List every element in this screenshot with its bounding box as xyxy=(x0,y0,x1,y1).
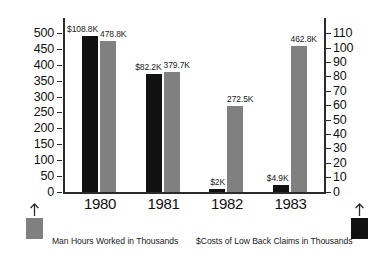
left-axis-tick-label: 100 xyxy=(18,154,54,166)
left-axis-tick-label: 50 xyxy=(18,170,54,182)
right-axis-tick xyxy=(326,177,331,178)
bar-value-label: $82.2K xyxy=(135,63,161,72)
x-axis-line xyxy=(63,192,326,194)
bar-man-hours xyxy=(227,106,243,192)
legend-swatch-costs xyxy=(351,218,368,239)
left-axis-tick-label: 200 xyxy=(18,122,54,134)
up-arrow-icon-left xyxy=(28,203,41,217)
bar-value-label: 462.8K xyxy=(291,35,317,44)
left-axis-tick xyxy=(57,97,62,98)
bar-group: $2K272.5K xyxy=(209,18,249,192)
bar-group: $82.2K379.7K xyxy=(146,18,186,192)
left-axis-tick xyxy=(57,81,62,82)
bar-value-label: $108.8K xyxy=(67,25,98,34)
right-axis-tick-label: 80 xyxy=(333,70,369,82)
plot-area: $108.8K478.8K$82.2K379.7K$2K272.5K$4.9K4… xyxy=(65,18,324,192)
right-axis-tick-label: 90 xyxy=(333,56,369,68)
bar-value-label: $2K xyxy=(210,178,225,187)
legend-swatch-man-hours xyxy=(26,218,43,239)
right-axis-tick xyxy=(326,148,331,149)
dual-axis-bar-chart: 050100150200250300350400450500 010203040… xyxy=(0,0,389,258)
bar-value-label: 379.7K xyxy=(164,61,190,70)
left-axis-tick xyxy=(57,65,62,66)
bar-man-hours xyxy=(100,41,116,192)
bar-value-label: 272.5K xyxy=(227,95,253,104)
right-axis-tick-label: 50 xyxy=(333,114,369,126)
left-axis-tick-label: 350 xyxy=(18,75,54,87)
category-label-1981: 1981 xyxy=(129,196,199,212)
bar-cost xyxy=(146,74,162,192)
right-axis-tick xyxy=(326,76,331,77)
right-axis-tick xyxy=(326,163,331,164)
right-axis-tick xyxy=(326,105,331,106)
bar-value-label: 478.8K xyxy=(100,30,126,39)
right-axis-tick xyxy=(326,91,331,92)
legend-label-costs: $Costs of Low Back Claims in Thousands xyxy=(196,236,353,246)
left-axis-tick-label: 250 xyxy=(18,106,54,118)
left-axis-tick-label: 500 xyxy=(18,27,54,39)
category-label-1980: 1980 xyxy=(65,196,135,212)
bar-cost xyxy=(273,185,289,192)
right-axis-tick-label: 40 xyxy=(333,128,369,140)
left-axis-tick xyxy=(57,112,62,113)
left-axis-tick xyxy=(57,128,62,129)
left-axis-tick xyxy=(57,144,62,145)
right-axis-tick-label: 110 xyxy=(333,27,369,39)
right-axis-tick-label: 20 xyxy=(333,157,369,169)
bar-cost xyxy=(82,36,98,192)
left-axis-tick-label: 150 xyxy=(18,138,54,150)
left-axis-tick xyxy=(57,49,62,50)
right-axis-tick xyxy=(326,120,331,121)
bar-group: $4.9K462.8K xyxy=(273,18,313,192)
bar-man-hours xyxy=(164,72,180,192)
left-axis-tick-label: 400 xyxy=(18,59,54,71)
bar-value-label: $4.9K xyxy=(267,174,289,183)
right-axis-tick-label: 10 xyxy=(333,171,369,183)
left-axis-tick xyxy=(57,176,62,177)
left-axis-tick xyxy=(57,192,62,193)
right-axis-tick xyxy=(326,48,331,49)
category-label-1983: 1983 xyxy=(256,196,326,212)
left-axis-tick-label: 0 xyxy=(18,186,54,198)
left-axis-tick xyxy=(57,33,62,34)
right-axis-tick-label: 0 xyxy=(333,186,369,198)
bar-cost xyxy=(209,189,225,192)
left-axis-tick-label: 300 xyxy=(18,91,54,103)
left-axis-tick-label: 450 xyxy=(18,43,54,55)
right-axis-tick-label: 70 xyxy=(333,85,369,97)
right-axis-tick-label: 100 xyxy=(333,42,369,54)
legend-label-man-hours: Man Hours Worked in Thousands xyxy=(52,236,178,246)
bar-man-hours xyxy=(291,46,307,192)
left-axis-tick xyxy=(57,160,62,161)
right-axis-tick xyxy=(326,33,331,34)
bar-group: $108.8K478.8K xyxy=(82,18,122,192)
right-axis-tick-label: 60 xyxy=(333,99,369,111)
right-axis-tick xyxy=(326,134,331,135)
category-label-1982: 1982 xyxy=(192,196,262,212)
right-axis-tick xyxy=(326,192,331,193)
up-arrow-icon-right xyxy=(353,203,366,217)
right-axis-tick xyxy=(326,62,331,63)
right-axis-tick-label: 30 xyxy=(333,142,369,154)
